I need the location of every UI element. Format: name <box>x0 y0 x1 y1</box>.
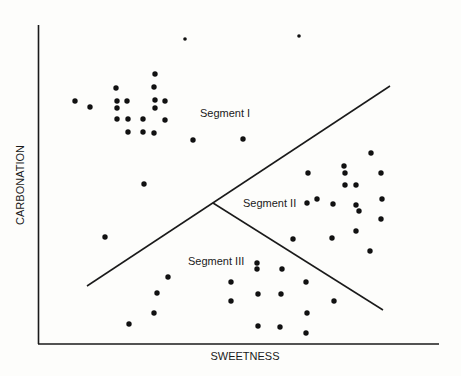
data-point <box>353 182 358 187</box>
data-point <box>125 116 130 121</box>
data-point <box>102 234 107 239</box>
y-axis-label: CARBONATION <box>14 145 26 225</box>
data-point <box>314 196 319 201</box>
segment-label-2: Segment II <box>243 197 296 209</box>
data-point <box>254 260 259 265</box>
data-point <box>379 196 384 201</box>
data-point <box>378 216 383 221</box>
data-point <box>162 98 167 103</box>
data-point <box>368 150 373 155</box>
data-point <box>151 84 156 89</box>
data-point <box>113 85 118 90</box>
data-point <box>151 130 156 135</box>
data-point <box>367 248 372 253</box>
data-point <box>342 170 347 175</box>
data-point <box>152 105 157 110</box>
data-point <box>183 37 187 41</box>
x-axis-label: SWEETNESS <box>210 350 279 362</box>
data-point <box>278 291 283 296</box>
data-point <box>329 235 334 240</box>
data-point <box>305 170 310 175</box>
data-point <box>303 279 308 284</box>
data-point <box>277 324 282 329</box>
data-point <box>255 323 260 328</box>
data-point <box>279 266 284 271</box>
data-point <box>165 274 170 279</box>
data-point <box>114 116 119 121</box>
data-point <box>353 228 358 233</box>
data-point <box>304 310 309 315</box>
data-point <box>151 310 156 315</box>
data-point <box>141 181 146 186</box>
data-point <box>353 202 358 207</box>
data-point <box>304 200 309 205</box>
data-point <box>114 105 119 110</box>
data-point <box>125 129 130 134</box>
data-point <box>152 71 157 76</box>
data-point <box>72 98 77 103</box>
data-point <box>140 129 145 134</box>
data-point <box>378 170 383 175</box>
data-point <box>303 330 308 335</box>
data-point <box>255 291 260 296</box>
data-point <box>297 34 301 38</box>
data-point <box>114 98 119 103</box>
data-point <box>190 137 195 142</box>
data-point <box>331 298 336 303</box>
data-point <box>228 298 233 303</box>
data-point <box>240 136 245 141</box>
data-point <box>154 290 159 295</box>
segment-label-1: Segment I <box>200 107 250 119</box>
data-point <box>162 117 167 122</box>
data-point <box>254 266 259 271</box>
data-point <box>140 116 145 121</box>
data-point <box>124 98 129 103</box>
data-point <box>341 163 346 168</box>
data-point <box>330 201 335 206</box>
data-point <box>290 236 295 241</box>
segment-label-3: Segment III <box>188 255 244 267</box>
data-point <box>126 321 131 326</box>
data-point <box>87 104 92 109</box>
data-points <box>72 34 384 335</box>
segmentation-chart: Segment I Segment II Segment III SWEETNE… <box>0 0 461 376</box>
data-point <box>228 279 233 284</box>
data-point <box>356 208 361 213</box>
data-point <box>152 97 157 102</box>
data-point <box>342 182 347 187</box>
